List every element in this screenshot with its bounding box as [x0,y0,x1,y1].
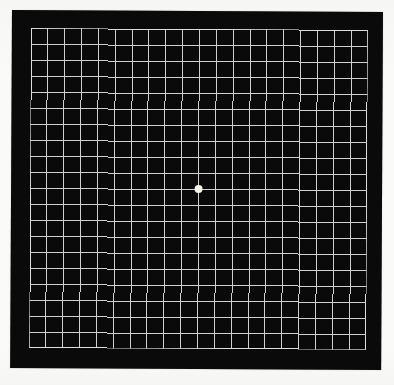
amsler-grid [29,28,368,350]
amsler-grid-square [10,10,383,370]
fixation-dot [195,185,203,193]
scanned-page-background [0,0,394,385]
